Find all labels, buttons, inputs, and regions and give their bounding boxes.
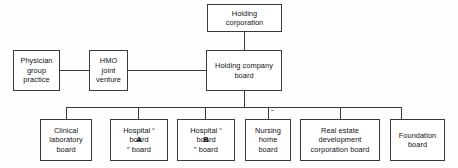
node-real-estate-development-corporation-board[interactable]: Real estate development corporation boar…	[300, 119, 380, 161]
node-clinical-laboratory-board-line-3: board	[56, 145, 75, 154]
node-clinical-laboratory-board-line-2: laboratory	[49, 135, 82, 144]
connector-drop-clinical-laboratory	[66, 107, 67, 119]
node-real-estate-line-1: Real estate	[321, 126, 359, 135]
node-nursing-home-board-line-3: board	[258, 145, 277, 154]
node-holding-company-board[interactable]: Holding company board	[206, 50, 282, 91]
node-nursing-home-board-line-1: Nursing	[255, 126, 281, 135]
node-physician-group-practice-line-1: Physician	[20, 56, 52, 65]
node-nursing-home-board[interactable]: Nursing home board	[245, 119, 291, 161]
node-clinical-laboratory-board[interactable]: Clinical laboratory board	[40, 119, 92, 161]
node-holding-corporation-label-wrap: Holding corporation	[207, 4, 282, 32]
node-hmo-joint-venture[interactable]: HMO joint venture	[89, 50, 128, 91]
node-hospital-b-board-line-2: board	[196, 135, 215, 144]
node-nursing-home-board-line-2: home	[259, 135, 278, 144]
node-real-estate-line-3: corporation board	[311, 145, 370, 154]
org-chart-diagram: Holding corporation Physician group prac…	[0, 0, 458, 168]
node-holding-corporation-text-1: Holding	[232, 9, 257, 18]
node-hmo-joint-venture-line-1: HMO	[100, 56, 117, 65]
scan-artifact-mark	[271, 110, 274, 111]
node-foundation-board-line-2: board	[408, 140, 427, 149]
connector-physician-to-hmo	[60, 70, 89, 71]
connector-drop-real-estate	[340, 107, 341, 119]
node-foundation-board[interactable]: Foundation board	[390, 119, 445, 161]
node-real-estate-line-2: development	[319, 135, 362, 144]
node-hospital-a-board-second-line: board	[110, 133, 168, 147]
node-clinical-laboratory-board-line-1: Clinical	[54, 126, 78, 135]
connector-drop-hospital-a	[138, 107, 139, 119]
connector-hmo-to-holding-board	[128, 70, 206, 71]
connector-board-to-bus	[244, 91, 245, 108]
node-hmo-joint-venture-line-3: venture	[96, 75, 121, 84]
node-holding-corporation-text-2: corporation	[226, 18, 264, 27]
node-physician-group-practice[interactable]: Physician group practice	[13, 50, 60, 91]
node-hmo-joint-venture-line-2: joint	[102, 66, 116, 75]
connector-drop-foundation	[401, 107, 402, 119]
node-physician-group-practice-line-2: group	[27, 66, 46, 75]
node-hospital-b-board-second-line: board	[177, 133, 235, 147]
node-holding-company-board-line-2: board	[234, 71, 253, 80]
connector-corp-to-board	[244, 32, 245, 50]
connector-drop-hospital-b	[205, 107, 206, 119]
node-foundation-board-line-1: Foundation	[399, 131, 436, 140]
node-hospital-a-board-line-2: board	[129, 135, 148, 144]
node-physician-group-practice-line-3: practice	[23, 75, 49, 84]
node-holding-company-board-line-1: Holding company	[215, 61, 273, 70]
connector-bus-bar	[66, 107, 401, 108]
connector-drop-nursing-home	[268, 107, 269, 119]
